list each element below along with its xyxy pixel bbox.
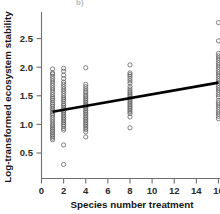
y-axis-ticks: 0.51.01.52.02.5 — [20, 33, 42, 158]
data-points-layer — [50, 20, 220, 166]
data-point — [128, 63, 132, 67]
y-tick-label: 2.0 — [20, 62, 33, 73]
data-point — [62, 69, 66, 73]
x-tick-label: 0 — [39, 185, 44, 196]
data-point — [84, 66, 88, 70]
y-tick-label: 1.0 — [20, 119, 33, 130]
data-point — [128, 126, 132, 130]
x-tick-label: 8 — [127, 185, 132, 196]
regression-line — [53, 83, 219, 112]
data-point — [62, 162, 66, 166]
x-tick-label: 6 — [105, 185, 110, 196]
x-axis-ticks: 0246810121416 — [39, 179, 220, 197]
x-tick-label: 14 — [191, 185, 202, 196]
x-tick-label: 10 — [147, 185, 158, 196]
x-tick-label: 16 — [213, 185, 220, 196]
data-point — [84, 135, 88, 139]
panel-label-fragment: b) — [76, 0, 84, 7]
y-axis-title: Log-transformed ecosystem stability — [2, 11, 13, 183]
data-point — [216, 39, 220, 43]
y-tick-label: 0.5 — [20, 147, 34, 158]
data-point — [62, 143, 66, 147]
scatter-plot-figure: b) 0.51.01.52.02.5 0246810121416 Species… — [0, 0, 220, 214]
x-tick-label: 4 — [83, 185, 89, 196]
plot-canvas: b) 0.51.01.52.02.5 0246810121416 Species… — [0, 0, 220, 214]
x-axis-title: Species number treatment — [70, 199, 194, 210]
data-point — [50, 67, 54, 71]
x-tick-label: 12 — [169, 185, 180, 196]
y-tick-label: 2.5 — [20, 33, 34, 44]
data-point — [216, 20, 220, 24]
x-tick-label: 2 — [61, 185, 66, 196]
y-tick-label: 1.5 — [20, 90, 34, 101]
